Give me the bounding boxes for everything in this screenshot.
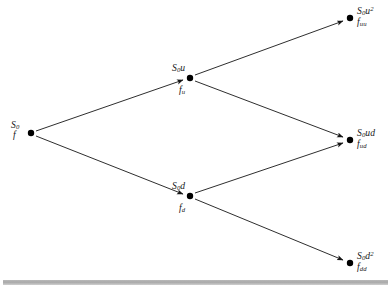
binomial-tree-figure: S0 f S0u fu S0d fd S0u2 fuu S0ud fud S0d… xyxy=(0,0,391,290)
edge-down-downdown xyxy=(195,199,343,260)
node-up-down xyxy=(347,137,353,143)
tree-edges-and-nodes xyxy=(0,0,391,290)
bottom-horizontal-rule xyxy=(3,280,388,285)
edge-down-updown xyxy=(195,143,343,193)
node-down-down xyxy=(347,260,353,266)
node-up-asset-label: S0u xyxy=(172,63,185,74)
node-up-down-value-label: fud xyxy=(357,139,367,150)
edge-up-updown xyxy=(195,81,343,137)
node-root-value-label: f xyxy=(13,130,16,140)
edge-root-up xyxy=(36,80,183,131)
node-down xyxy=(187,193,193,199)
node-up-up xyxy=(347,15,353,21)
node-down-value-label: fd xyxy=(179,203,185,214)
edge-up-upup xyxy=(195,21,343,75)
node-down-asset-label: S0d xyxy=(172,181,185,192)
node-root xyxy=(28,130,34,136)
node-down-down-value-label: fdd xyxy=(357,262,367,273)
edge-root-down xyxy=(36,136,183,194)
node-up-up-value-label: fuu xyxy=(357,17,367,28)
node-up-value-label: fu xyxy=(179,85,185,96)
node-up xyxy=(187,75,193,81)
